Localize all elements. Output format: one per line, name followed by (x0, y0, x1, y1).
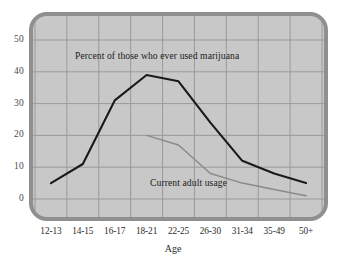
y-tick-40: 40 (2, 66, 24, 76)
x-axis-title: Age (0, 243, 346, 254)
chart-figure: 50403020100 12-1314-1516-1718-2122-2526-… (0, 0, 346, 265)
x-tick-50+: 50+ (286, 226, 326, 236)
y-tick-10: 10 (2, 161, 24, 171)
plot-area-frame (29, 12, 328, 221)
annotation-upper-series: Percent of those who ever used marijuana (75, 50, 239, 61)
annotation-lower-series: Current adult usage (150, 177, 227, 188)
y-tick-20: 20 (2, 129, 24, 139)
y-tick-30: 30 (2, 98, 24, 108)
y-tick-0: 0 (2, 193, 24, 203)
y-tick-50: 50 (2, 34, 24, 44)
